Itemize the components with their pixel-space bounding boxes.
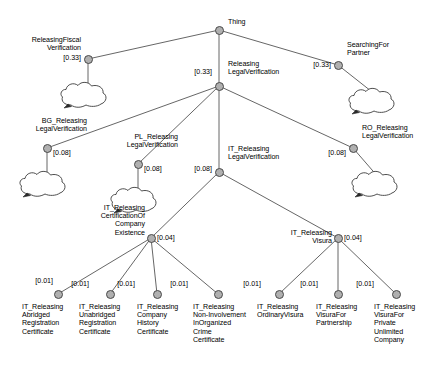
node-label-it-releasing-non-involvement-in-organized-crime-certificate: IT_Releasing Non-Involvement InOrganized…	[193, 303, 246, 344]
node-weight-it-releasing-visura: [0.04]	[344, 234, 362, 242]
tree-node-it-releasing-abridged-registration-certificate[interactable]	[54, 290, 63, 299]
node-weight-it-releasing-company-history-certificate: [0.01]	[117, 280, 135, 288]
tree-node-releasing-legal-verification[interactable]	[215, 82, 224, 91]
tree-edge	[151, 172, 219, 238]
tree-node-it-releasing-visura[interactable]	[334, 234, 343, 243]
node-weight-it-releasing-visura-for-private-unlimited-company: [0.01]	[356, 280, 374, 288]
node-label-it-releasing-visura-for-private-unlimited-company: IT_Releasing VisuraFor Private Unlimited…	[374, 303, 415, 344]
node-weight-bg-releasing-legal-verification: [0.08]	[53, 149, 71, 157]
node-label-it-releasing-visura-for-partnership: IT_Releasing VisuraFor Partnership	[316, 303, 357, 328]
tree-edge	[138, 86, 219, 164]
node-label-releasing-legal-verification: Releasing LegalVerification	[228, 60, 279, 76]
tree-node-thing[interactable]	[215, 26, 224, 35]
node-weight-it-releasing-non-involvement-in-organized-crime-certificate: [0.01]	[170, 280, 188, 288]
node-weight-releasing-fiscal-verification: [0.33]	[63, 54, 81, 62]
node-label-releasing-fiscal-verification: ReleasingFiscal Verification	[32, 36, 81, 52]
node-weight-ro-releasing-legal-verification: [0.08]	[328, 149, 346, 157]
node-weight-searching-for-partner: [0.33]	[313, 61, 331, 69]
tree-node-it-releasing-legal-verification[interactable]	[215, 168, 224, 177]
node-label-it-releasing-visura: IT_Releasing Visura	[291, 229, 332, 245]
tree-node-it-releasing-visura-for-partnership[interactable]	[334, 290, 343, 299]
node-weight-releasing-legal-verification: [0.33]	[194, 68, 212, 76]
tree-edge	[151, 238, 157, 294]
instance-cloud-icon	[346, 85, 398, 119]
node-label-ro-releasing-legal-verification: RO_Releasing LegalVerification	[362, 124, 413, 140]
instance-cloud-icon	[17, 168, 69, 202]
node-weight-it-releasing-legal-verification: [0.08]	[194, 165, 212, 173]
node-weight-pl-releasing-legal-verification: [0.08]	[144, 165, 162, 173]
node-label-it-releasing-unabridged-registration-certificate: IT_Releasing Unabridged Registration Cer…	[79, 303, 120, 336]
tree-node-it-releasing-ordinary-visura[interactable]	[275, 290, 284, 299]
tree-edge	[219, 86, 353, 148]
node-label-bg-releasing-legal-verification: BG_Releasing LegalVerification	[36, 117, 87, 133]
tree-node-searching-for-partner[interactable]	[334, 61, 343, 70]
node-label-it-releasing-ordinary-visura: IT_Releasing OrdinaryVisura	[257, 303, 303, 319]
tree-node-it-releasing-non-involvement-in-organized-crime-certificate[interactable]	[214, 290, 223, 299]
tree-node-it-releasing-company-history-certificate[interactable]	[153, 290, 162, 299]
tree-node-it-releasing-unabridged-registration-certificate[interactable]	[106, 290, 115, 299]
node-label-it-releasing-company-history-certificate: IT_Releasing Company History Certificate	[137, 303, 178, 336]
node-label-it-releasing-abridged-registration-certificate: IT_Releasing Abridged Registration Certi…	[22, 303, 63, 336]
node-label-pl-releasing-legal-verification: PL_Releasing LegalVerification	[127, 133, 178, 149]
instance-cloud-icon	[349, 168, 401, 202]
tree-node-bg-releasing-legal-verification[interactable]	[43, 144, 52, 153]
node-label-it-releasing-certification-of-company-existence: IT_Releasing CertificationOf Company Exi…	[101, 204, 145, 237]
node-weight-it-releasing-certification-of-company-existence: [0.04]	[157, 234, 175, 242]
node-weight-it-releasing-abridged-registration-certificate: [0.01]	[35, 277, 53, 285]
node-label-thing: Thing	[228, 18, 246, 26]
node-label-searching-for-partner: SearchingFor Partner	[347, 41, 389, 57]
instance-cloud-icon	[58, 79, 110, 113]
tree-node-it-releasing-certification-of-company-existence[interactable]	[147, 234, 156, 243]
tree-node-it-releasing-visura-for-private-unlimited-company[interactable]	[392, 290, 401, 299]
tree-node-ro-releasing-legal-verification[interactable]	[349, 144, 358, 153]
tree-edge	[88, 30, 219, 59]
tree-node-pl-releasing-legal-verification[interactable]	[134, 160, 143, 169]
node-weight-it-releasing-unabridged-registration-certificate: [0.01]	[71, 280, 89, 288]
node-weight-it-releasing-ordinary-visura: [0.01]	[243, 280, 261, 288]
tree-node-releasing-fiscal-verification[interactable]	[84, 55, 93, 64]
node-label-it-releasing-legal-verification: IT_Releasing LegalVerification	[228, 145, 279, 161]
node-weight-it-releasing-visura-for-partnership: [0.01]	[300, 280, 318, 288]
diagram-canvas: ThingReleasingFiscal Verification[0.33]R…	[0, 0, 432, 366]
